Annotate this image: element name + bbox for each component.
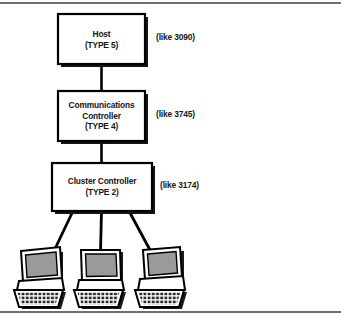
cluster-controller-box-label: Cluster Controller (TYPE 2) [52,176,152,197]
terminal-right-base-body [138,276,185,290]
comm-controller-name-line1: Communications [58,100,145,111]
terminal-icon-left[interactable] [14,247,66,309]
comm-controller-type: (TYPE 4) [58,121,145,132]
terminal-icon-center[interactable] [74,250,126,309]
cluster-controller-name: Cluster Controller [52,176,152,187]
terminal-right-keys [139,293,181,305]
host-name: Host [58,29,145,40]
cluster-controller-type: (TYPE 2) [52,187,152,198]
host-type: (TYPE 5) [58,40,145,51]
comm-controller-annotation: (like 3745) [156,109,195,120]
terminal-right-screen [148,252,178,276]
terminal-icon-right[interactable] [135,247,187,309]
terminal-center-keys [78,293,120,305]
terminal-center-screen [86,254,118,277]
link-cluster-to-terminal-center [101,211,102,252]
terminal-left-keys [18,293,60,305]
cluster-controller-annotation: (like 3174) [160,180,199,191]
host-annotation: (like 3090) [156,32,195,43]
link-cluster-to-terminal-right [129,211,150,250]
host-box-label: Host (TYPE 5) [58,29,145,50]
comm-controller-name-line2: Controller [58,111,145,122]
terminal-left-base-body [17,278,64,290]
terminal-center-base-body [77,280,124,290]
network-diagram-figure: Host (TYPE 5) (like 3090) Communications… [0,0,341,321]
diagram-canvas [0,0,341,321]
terminal-left-screen [26,252,58,278]
comm-controller-box-label: Communications Controller (TYPE 4) [58,100,145,132]
